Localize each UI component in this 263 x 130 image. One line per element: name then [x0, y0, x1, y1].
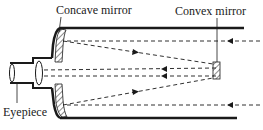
light-rays	[42, 41, 260, 105]
eyepiece-lens	[36, 61, 43, 85]
eyepiece-tube	[10, 64, 15, 82]
telescope-diagram: Concave mirror Convex mirror Eyepiece	[0, 0, 263, 130]
arrow-right-icon	[132, 49, 139, 55]
label-convex-mirror: Convex mirror	[175, 4, 246, 18]
label-leaders	[17, 17, 217, 103]
arrow-left-icon	[227, 38, 233, 44]
label-eyepiece: Eyepiece	[3, 105, 47, 119]
label-concave-mirror: Concave mirror	[56, 3, 132, 17]
arrow-left-icon	[161, 73, 167, 79]
arrow-right-icon	[132, 89, 139, 95]
ray-to-eyepiece-upper	[42, 68, 216, 70]
arrow-left-icon	[161, 66, 167, 72]
concave-mirror	[55, 29, 67, 117]
arrow-left-icon	[227, 102, 233, 108]
